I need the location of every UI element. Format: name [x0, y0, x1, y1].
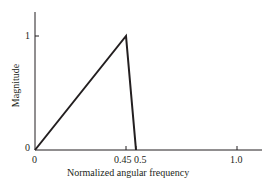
x-tick-label-0: 0 — [32, 155, 37, 165]
y-tick-label-0: 0 — [25, 143, 30, 153]
x-tick-label-045-05: 0.45 0.5 — [114, 155, 147, 165]
x-axis-label: Normalized angular frequency — [67, 168, 189, 178]
x-tick-label-1: 1.0 — [230, 155, 243, 165]
magnitude-line — [35, 36, 136, 150]
y-axis-label: Magnitude — [10, 60, 21, 112]
y-tick-label-1: 1 — [25, 31, 30, 41]
